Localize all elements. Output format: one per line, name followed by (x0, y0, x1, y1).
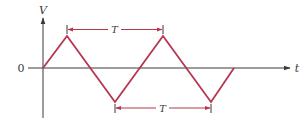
top-period-annotation: T (67, 24, 163, 35)
origin-label: 0 (18, 62, 25, 75)
time-axis-label: t (295, 62, 300, 75)
triangle-waveform (43, 36, 234, 102)
top-period-label: T (111, 24, 119, 35)
bottom-period-annotation: T (115, 103, 211, 114)
bottom-period-label: T (159, 103, 167, 114)
triangle-wave-diagram: V t 0 T T (0, 0, 308, 125)
voltage-axis-label: V (39, 4, 48, 17)
